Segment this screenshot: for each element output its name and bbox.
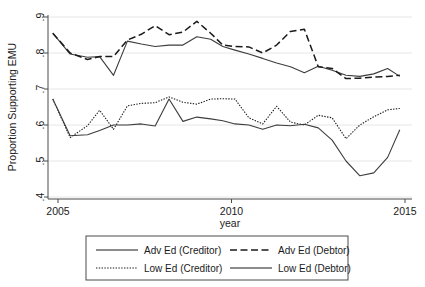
- series-line-1: [53, 21, 400, 78]
- y-axis-title: Proportion Supporting EMU: [6, 43, 18, 171]
- y-tick-label: .8: [34, 48, 46, 57]
- y-tick-label: .9: [34, 12, 46, 21]
- chart-legend: Adv Ed (Creditor)Adv Ed (Debtor)Low Ed (…: [86, 236, 351, 280]
- series-line-3: [53, 99, 400, 176]
- gridlines: [48, 17, 412, 197]
- y-tick-label: .6: [34, 120, 46, 129]
- chart-figure: .4.5.6.7.8.9 200520102015 Proportion Sup…: [0, 0, 425, 287]
- x-axis-ticks: 200520102015: [46, 199, 417, 217]
- y-axis-ticks: .4.5.6.7.8.9: [34, 12, 49, 201]
- series-line-0: [53, 33, 400, 76]
- data-series-group: [53, 21, 400, 175]
- legend-label-2: Low Ed (Creditor): [144, 263, 222, 274]
- x-tick-label: 2010: [220, 205, 244, 217]
- x-axis-title: year: [220, 217, 241, 229]
- legend-label-0: Adv Ed (Creditor): [144, 245, 221, 256]
- legend-label-3: Low Ed (Debtor): [278, 263, 351, 274]
- y-tick-label: .4: [34, 192, 46, 201]
- y-tick-label: .7: [34, 84, 46, 93]
- x-tick-label: 2015: [393, 205, 417, 217]
- y-tick-label: .5: [34, 156, 46, 165]
- legend-label-1: Adv Ed (Debtor): [278, 245, 350, 256]
- x-tick-label: 2005: [46, 205, 70, 217]
- axis-lines: [48, 15, 412, 199]
- series-line-2: [53, 97, 400, 139]
- line-chart: .4.5.6.7.8.9 200520102015 Proportion Sup…: [0, 0, 425, 287]
